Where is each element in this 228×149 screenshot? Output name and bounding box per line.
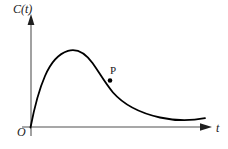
origin-label: O <box>17 126 26 138</box>
figure-container: C(t) O t P <box>0 0 228 149</box>
x-axis-label: t <box>216 122 219 134</box>
point-p-marker <box>108 78 113 83</box>
ct-curve <box>31 50 206 127</box>
y-axis-label: C(t) <box>13 3 32 15</box>
x-axis-arrowhead <box>200 123 212 130</box>
point-p-label: P <box>110 65 116 76</box>
